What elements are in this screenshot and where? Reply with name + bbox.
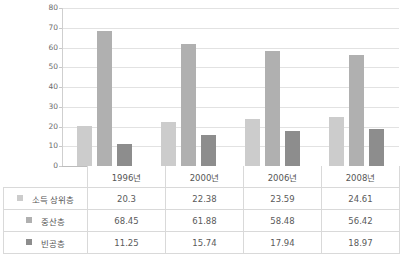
y-tick-label-20: 20	[30, 123, 58, 131]
legend-cell-빈공층: 빈공층	[4, 232, 88, 254]
bar-group-2008년	[315, 8, 399, 166]
legend-swatch-icon	[26, 239, 32, 245]
y-tick-label-80: 80	[30, 4, 58, 12]
table-body: 소득 상위층20.322.3823.5924.61중산층68.4561.8858…	[4, 188, 400, 254]
table-row: 소득 상위층20.322.3823.5924.61	[4, 188, 400, 210]
bar-빈공층-2008년	[369, 129, 384, 166]
bar-빈공층-2000년	[201, 135, 216, 166]
table-row: 빈공층11.2515.7417.9418.97	[4, 232, 400, 254]
y-axis-tick-labels: 80706050403020100	[30, 8, 58, 166]
column-header-1: 2000년	[166, 166, 244, 188]
bar-중산층-2008년	[349, 55, 364, 166]
bar-group-2006년	[231, 8, 315, 166]
table-cell-중산층-2006년: 58.48	[244, 210, 322, 232]
bar-빈공층-2006년	[285, 131, 300, 166]
table-row: 중산층68.4561.8858.4856.42	[4, 210, 400, 232]
table-cell-소득 상위층-2008년: 24.61	[322, 188, 400, 210]
table-cell-중산층-2000년: 61.88	[166, 210, 244, 232]
table-cell-빈공층-2006년: 17.94	[244, 232, 322, 254]
bar-중산층-2000년	[181, 44, 196, 166]
legend-label: 소득 상위층	[32, 193, 75, 205]
table-cell-소득 상위층-2006년: 23.59	[244, 188, 322, 210]
legend-swatch-icon	[26, 217, 32, 223]
bar-중산층-1996년	[97, 31, 112, 166]
legend-label: 중산층	[41, 215, 65, 227]
column-header-2: 2006년	[244, 166, 322, 188]
bar-group-1996년	[62, 8, 146, 166]
data-table: 1996년 2000년 2006년 2008년 소득 상위층20.322.382…	[3, 166, 400, 254]
legend-label: 빈공층	[41, 237, 65, 249]
legend-cell-소득 상위층: 소득 상위층	[4, 188, 88, 210]
y-tick-label-50: 50	[30, 63, 58, 71]
legend-swatch-icon	[17, 195, 23, 201]
chart-container: 80706050403020100 1996년 2000년 2006년 2008…	[0, 0, 402, 268]
bars-layer	[62, 8, 399, 166]
table-cell-빈공층-2008년: 18.97	[322, 232, 400, 254]
table-cell-빈공층-1996년: 11.25	[88, 232, 166, 254]
y-tick-label-30: 30	[30, 103, 58, 111]
column-header-0: 1996년	[88, 166, 166, 188]
y-tick-label-60: 60	[30, 44, 58, 52]
legend-cell-중산층: 중산층	[4, 210, 88, 232]
bar-소득 상위층-1996년	[77, 126, 92, 166]
table-cell-중산층-1996년: 68.45	[88, 210, 166, 232]
y-tick-label-70: 70	[30, 24, 58, 32]
bar-소득 상위층-2000년	[161, 122, 176, 166]
table-corner-cell	[4, 166, 88, 188]
y-tick-label-10: 10	[30, 142, 58, 150]
bar-소득 상위층-2006년	[245, 119, 260, 166]
bar-빈공층-1996년	[117, 144, 132, 166]
table-cell-중산층-2008년: 56.42	[322, 210, 400, 232]
table-cell-빈공층-2000년: 15.74	[166, 232, 244, 254]
table-header-row: 1996년 2000년 2006년 2008년	[4, 166, 400, 188]
column-header-3: 2008년	[322, 166, 400, 188]
table-cell-소득 상위층-1996년: 20.3	[88, 188, 166, 210]
bar-소득 상위층-2008년	[329, 117, 344, 166]
plot-area: 80706050403020100	[0, 0, 402, 182]
table-cell-소득 상위층-2000년: 22.38	[166, 188, 244, 210]
y-tick-label-40: 40	[30, 83, 58, 91]
bar-중산층-2006년	[265, 51, 280, 166]
bar-group-2000년	[146, 8, 230, 166]
